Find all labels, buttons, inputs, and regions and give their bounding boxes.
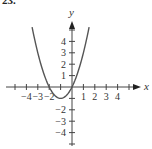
x-axis-arrow-icon [133,84,141,90]
x-tick-label: 2 [92,91,97,102]
x-tick-label: −4 [21,91,32,102]
y-tick-label: −4 [55,127,66,138]
y-tick-label: 4 [61,36,66,47]
y-axis-label: y [68,6,74,18]
x-axis-label: x [143,80,149,92]
y-tick-label: −3 [55,116,66,127]
y-axis-arrow-icon [69,21,75,29]
x-tick-label: 1 [81,91,86,102]
y-tick-label: 2 [61,59,66,70]
y-tick-label: 1 [61,70,66,81]
x-tick-label: 4 [115,91,120,102]
y-tick-label: 3 [61,47,66,58]
y-tick-label: −2 [55,104,66,115]
parabola-graph: xy−4−3−21234−4−3−21234 [0,0,152,149]
x-tick-label: 3 [104,91,109,102]
x-tick-label: −3 [32,91,43,102]
